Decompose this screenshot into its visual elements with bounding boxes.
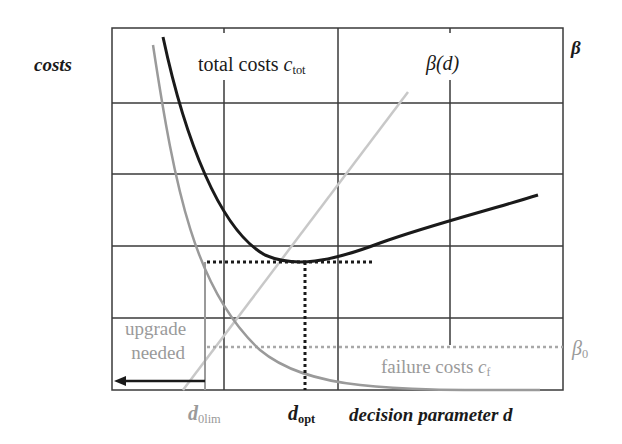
beta0-label: β0 xyxy=(572,338,588,361)
x-axis-label: decision parameter d xyxy=(349,405,513,424)
y-axis-label-beta: β xyxy=(571,38,581,57)
failure-costs-curve xyxy=(153,45,540,390)
total-costs-label: total costs ctot xyxy=(198,54,306,77)
upgrade-needed-label: upgrade needed xyxy=(125,319,186,362)
y-axis-label-costs: costs xyxy=(34,55,72,74)
d0lim-label: d0lim xyxy=(188,403,221,426)
dopt-label: dopt xyxy=(288,403,315,426)
chart-canvas xyxy=(0,0,622,444)
beta-d-label: β(d) xyxy=(426,53,459,73)
failure-costs-label: failure costs cf xyxy=(381,357,490,379)
beta-d-line xyxy=(183,92,408,390)
